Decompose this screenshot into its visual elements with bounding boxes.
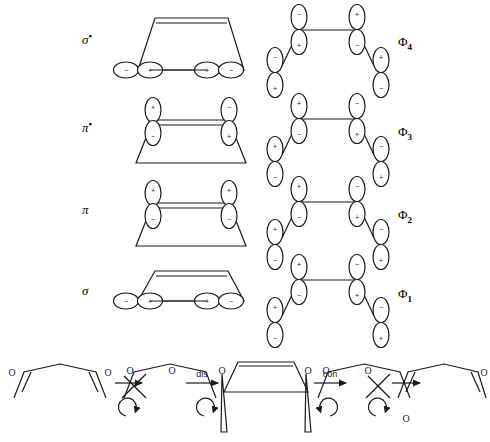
wedge-right bbox=[305, 374, 311, 432]
atom-O: O bbox=[402, 413, 409, 424]
rotation-arrow bbox=[320, 398, 338, 416]
dis-label: dis bbox=[196, 369, 208, 379]
atom-O: O bbox=[364, 365, 371, 376]
atom-O: O bbox=[168, 365, 175, 376]
arrow-dis-group: dis bbox=[186, 369, 218, 383]
rotation-arrow bbox=[368, 398, 386, 416]
scheme-product-left: O O bbox=[8, 364, 111, 398]
atom-O: O bbox=[126, 365, 133, 376]
scheme-product-right: O O bbox=[398, 364, 488, 424]
atom-O: O bbox=[218, 365, 225, 376]
atom-O: O bbox=[8, 367, 15, 378]
atom-O: O bbox=[322, 365, 329, 376]
scheme-cyclobutene: O O bbox=[196, 362, 337, 432]
wedge-left bbox=[221, 374, 227, 432]
ring-opening-scheme: O O O O dis O O bbox=[0, 0, 490, 442]
correlation-diagram: σ▪ π▪ π σ Φ4 Φ3 Φ2 Φ1 − + + − bbox=[0, 0, 490, 442]
atom-O: O bbox=[304, 365, 311, 376]
atom-O: O bbox=[480, 367, 487, 378]
rotation-arrow bbox=[118, 398, 136, 416]
rotation-arrow bbox=[196, 398, 214, 416]
atom-O: O bbox=[104, 367, 111, 378]
